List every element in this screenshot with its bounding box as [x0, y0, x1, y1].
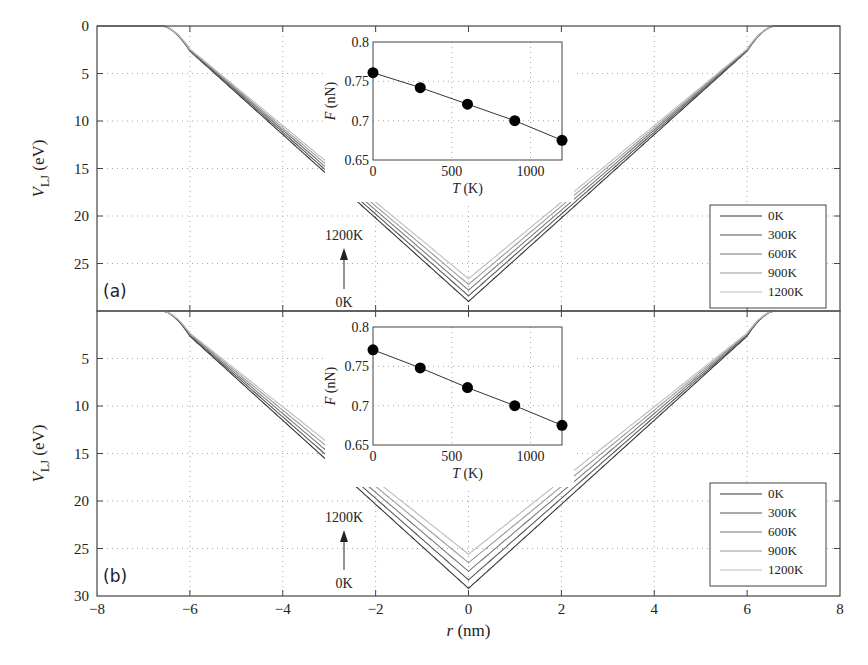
legend-label: 600K [768, 246, 798, 261]
legend-label: 0K [768, 208, 785, 223]
y-tick-label: 5 [82, 66, 90, 82]
y-tick-label: 25 [74, 541, 89, 557]
inset-y-tick-label: 0.65 [345, 438, 370, 453]
y-tick-label: 25 [74, 256, 89, 272]
inset-data-point [509, 400, 520, 411]
legend-label: 300K [768, 227, 798, 242]
x-tick-label: −6 [182, 601, 198, 617]
inset-y-tick-label: 0.7 [352, 114, 370, 129]
x-tick-label: −2 [368, 601, 384, 617]
inset-y-tick-label: 0.75 [345, 74, 370, 89]
panel-b: 51015202530−8−6−4−202468r (nm)VLJ (eV)(b… [29, 311, 844, 640]
inset-y-tick-label: 0.65 [345, 153, 370, 168]
y-tick-label: 20 [74, 493, 89, 509]
panel-label: (a) [103, 281, 127, 301]
annotation-1200K: 1200K [325, 510, 363, 525]
legend-label: 0K [768, 486, 785, 501]
legend: 0K300K600K900K1200K [710, 205, 826, 308]
legend-label: 900K [768, 543, 798, 558]
arrow-head-icon [340, 530, 348, 542]
inset-x-tick-label: 500 [441, 449, 462, 464]
x-tick-label: 2 [558, 601, 566, 617]
y-tick-label: 15 [74, 446, 89, 462]
inset-x-tick-label: 1000 [517, 164, 545, 179]
inset-y-axis-label: F (nN) [323, 81, 339, 121]
y-tick-label: 15 [74, 161, 89, 177]
inset-x-tick-label: 1000 [517, 449, 545, 464]
inset-y-tick-label: 0.7 [352, 399, 370, 414]
inset-data-point [509, 115, 520, 126]
inset-x-axis-label: T (K) [452, 466, 483, 482]
legend-label: 1200K [768, 284, 804, 299]
inset-y-axis-label: F (nN) [323, 366, 339, 406]
y-tick-label: 10 [74, 398, 89, 414]
inset-x-axis-label: T (K) [452, 181, 483, 197]
legend-label: 300K [768, 505, 798, 520]
y-tick-label: 5 [82, 351, 90, 367]
x-tick-label: −8 [89, 601, 105, 617]
inset-data-point [368, 344, 379, 355]
inset-data-point [557, 135, 568, 146]
panel-a: 0510152025VLJ (eV)(a)1200K0K0K300K600K90… [29, 18, 840, 311]
legend-label: 600K [768, 524, 798, 539]
x-axis-label: r (nm) [447, 621, 491, 640]
y-tick-label: 30 [74, 588, 89, 604]
inset-data-point [462, 99, 473, 110]
x-tick-label: 4 [651, 601, 659, 617]
y-tick-label: 10 [74, 113, 89, 129]
panel-label: (b) [103, 566, 127, 586]
inset-x-tick-label: 0 [370, 164, 377, 179]
inset-chart: 0.650.70.750.805001000T (K)F (nN) [323, 32, 574, 202]
legend-label: 900K [768, 265, 798, 280]
figure: 0510152025VLJ (eV)(a)1200K0K0K300K600K90… [0, 0, 868, 665]
x-tick-label: 0 [465, 601, 473, 617]
legend: 0K300K600K900K1200K [710, 483, 826, 586]
inset-data-point [415, 82, 426, 93]
inset-y-tick-label: 0.8 [352, 320, 370, 335]
inset-y-tick-label: 0.75 [345, 359, 370, 374]
annotation-1200K: 1200K [325, 228, 363, 243]
inset-chart: 0.650.70.750.805001000T (K)F (nN) [323, 317, 574, 487]
y-axis-label: VLJ (eV) [29, 425, 52, 483]
inset-data-point [415, 362, 426, 373]
inset-data-point [462, 382, 473, 393]
annotation-0K: 0K [335, 576, 352, 591]
inset-data-point [557, 420, 568, 431]
inset-y-tick-label: 0.8 [352, 35, 370, 50]
y-axis-label: VLJ (eV) [29, 140, 52, 198]
inset-x-tick-label: 500 [441, 164, 462, 179]
x-tick-label: −4 [275, 601, 291, 617]
inset-x-tick-label: 0 [370, 449, 377, 464]
x-tick-label: 6 [743, 601, 751, 617]
inset-data-point [368, 67, 379, 78]
x-tick-label: 8 [836, 601, 844, 617]
y-tick-label: 0 [82, 18, 90, 34]
annotation-0K: 0K [335, 295, 352, 310]
arrow-head-icon [340, 248, 348, 260]
y-tick-label: 20 [74, 208, 89, 224]
legend-label: 1200K [768, 562, 804, 577]
